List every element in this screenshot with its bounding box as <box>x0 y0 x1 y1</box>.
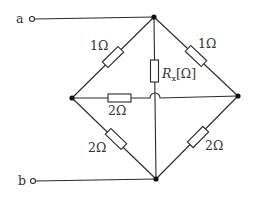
wire-b-to-bottom <box>36 179 156 181</box>
resistor-top-left <box>72 17 154 98</box>
label-top-left: 1Ω <box>90 38 108 53</box>
circuit-diagram: a b 1Ω 1Ω Rx[Ω] 2Ω 2Ω 2Ω <box>0 0 253 201</box>
node-right <box>235 93 240 98</box>
label-bottom-left: 2Ω <box>88 140 106 155</box>
terminal-a <box>30 17 35 22</box>
node-top <box>151 14 156 19</box>
terminal-a-label: a <box>16 11 24 26</box>
node-bottom <box>153 176 158 181</box>
resistor-bottom-right <box>156 96 238 179</box>
label-bottom-right: 2Ω <box>205 138 223 153</box>
resistor-rx <box>151 17 159 179</box>
label-top-right: 1Ω <box>198 36 216 51</box>
wire-a-to-top <box>35 17 154 19</box>
terminal-b <box>31 179 36 184</box>
label-middle: 2Ω <box>108 103 126 118</box>
resistor-top-right <box>154 17 238 96</box>
label-rx: Rx[Ω] <box>161 66 196 83</box>
node-left <box>69 95 74 100</box>
terminal-b-label: b <box>18 173 26 188</box>
